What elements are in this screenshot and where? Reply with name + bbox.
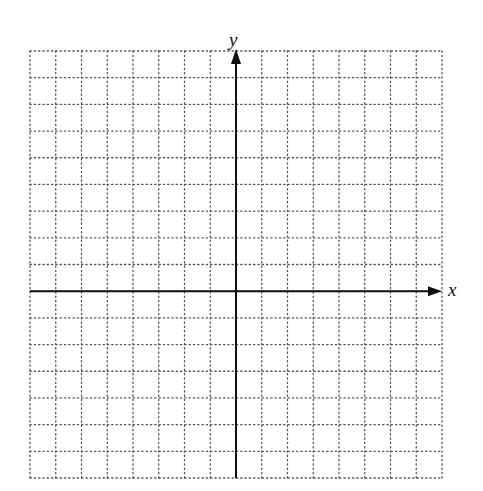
y-axis-label: y: [229, 30, 237, 49]
x-axis-label: x: [448, 280, 456, 299]
x-axis-arrow-icon: [428, 286, 442, 296]
coordinate-plane: [0, 0, 483, 491]
